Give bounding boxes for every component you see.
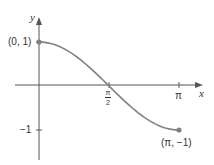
end-point-label: (π, −1) (161, 138, 192, 148)
cosine-curve (39, 42, 179, 130)
tick-label-half-pi: π 2 (105, 89, 111, 106)
end-point-marker (176, 127, 181, 132)
start-point-marker (36, 39, 41, 44)
fraction-bar (105, 97, 111, 98)
half-pi-numerator: π (106, 89, 111, 96)
tick-label-neg-one: −1 (20, 125, 31, 135)
half-pi-denominator: 2 (106, 99, 110, 106)
y-axis-arrow-icon (36, 17, 42, 25)
y-axis-label: y (30, 12, 35, 23)
start-point-label: (0, 1) (8, 37, 31, 47)
x-axis-label: x (199, 88, 204, 99)
tick-label-pi: π (175, 91, 182, 101)
